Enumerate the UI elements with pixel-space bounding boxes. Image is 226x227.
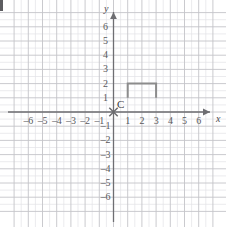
y-tick-label-6: 6	[98, 22, 114, 32]
point-label-c: C	[117, 99, 124, 110]
x-axis-label: x	[216, 114, 220, 124]
y-axis-label: y	[104, 4, 108, 14]
y-tick-label-neg5: –5	[98, 178, 114, 188]
y-tick-label-neg1: –1	[98, 121, 114, 131]
y-tick-label-1: 1	[98, 93, 114, 103]
y-tick-label-2: 2	[98, 79, 114, 89]
y-tick-label-neg3: –3	[98, 150, 114, 160]
y-tick-label-4: 4	[98, 50, 114, 60]
x-axis-arrowhead	[203, 109, 210, 116]
y-tick-label-neg6: –6	[98, 192, 114, 202]
y-tick-label-neg2: –2	[98, 135, 114, 145]
coordinate-plane-figure: –6–5–4–3–2–1123456654321–1–2–3–4–5–6 x y…	[0, 0, 226, 227]
y-tick-label-3: 3	[98, 64, 114, 74]
y-tick-label-neg4: –4	[98, 164, 114, 174]
x-tick-label-6: 6	[191, 116, 207, 126]
y-tick-label-5: 5	[98, 36, 114, 46]
